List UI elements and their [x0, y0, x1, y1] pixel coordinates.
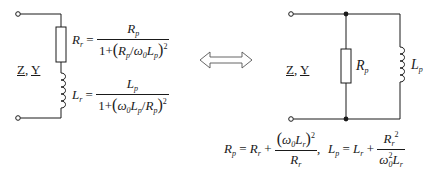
numerator: Rp — [97, 22, 170, 39]
terminal-bottom-left — [16, 116, 21, 121]
sub: p — [335, 149, 339, 158]
denominator: 1+(Rp/ω0Lp)2 — [97, 39, 170, 60]
equals: = — [342, 141, 349, 156]
fraction: Rp 1+(Rp/ω0Lp)2 — [97, 22, 170, 60]
denominator: Rr — [275, 150, 317, 169]
sym: ω — [134, 43, 143, 58]
sym: R — [224, 141, 232, 156]
plus: + — [264, 141, 271, 156]
terminal-top-right — [289, 12, 294, 17]
sub: r — [360, 149, 363, 158]
terminal-top-left — [16, 12, 21, 17]
sym: L — [131, 98, 138, 113]
rl-equivalence-diagram: Z, Y Z, Y Rp Lp Rr = Rp 1+(Rp/ω0Lp)2 Lr … — [0, 0, 433, 175]
lp-component-label: Lp — [411, 57, 423, 74]
fraction: Lp 1+(ω0Lp/Rp)2 — [96, 77, 169, 115]
fraction: (ω0Lr)2 Rr — [275, 131, 317, 169]
comma: , — [317, 141, 320, 156]
sub: p — [232, 149, 236, 158]
exp: 2 — [163, 97, 167, 106]
numerator: Rr2 — [377, 131, 405, 149]
inductor-lp — [400, 47, 405, 82]
formula-lr: Lr = Lp 1+(ω0Lp/Rp)2 — [72, 77, 169, 115]
junction-bottom — [344, 117, 349, 122]
y-symbol: Y — [300, 62, 309, 77]
rp-component-label: Rp — [356, 58, 369, 75]
separator: , — [294, 62, 297, 77]
plus: + — [367, 141, 374, 156]
separator: , — [25, 62, 28, 77]
sym: R — [72, 32, 80, 47]
sub: r — [258, 149, 261, 158]
equals: = — [86, 32, 93, 47]
sub: r — [79, 95, 82, 104]
l-symbol: L — [411, 57, 419, 72]
sym: ω — [117, 98, 126, 113]
z-symbol: Z — [286, 62, 294, 77]
formula-rr: Rr = Rp 1+(Rp/ω0Lp)2 — [72, 22, 169, 60]
junction-top — [344, 12, 349, 17]
sym: L — [147, 43, 154, 58]
sub: p — [135, 29, 139, 38]
resistor-rr — [56, 27, 66, 62]
impedance-admittance-label-right: Z, Y — [286, 62, 309, 78]
sub: r — [400, 160, 403, 169]
sym: R — [127, 21, 135, 36]
subscript: p — [419, 65, 423, 74]
inductor-lr — [61, 73, 66, 108]
equals: = — [86, 87, 93, 102]
sub: r — [80, 40, 83, 49]
y-symbol: Y — [31, 62, 40, 77]
exp: 2 — [395, 130, 399, 139]
denominator: ω02Lr — [377, 149, 405, 169]
sub: r — [298, 160, 301, 169]
r-symbol: R — [356, 58, 365, 73]
equals: = — [239, 141, 246, 156]
one-plus: 1+ — [99, 43, 113, 58]
numerator: Lp — [96, 77, 169, 94]
fraction: Rr2 ω02Lr — [377, 131, 405, 169]
one-plus: 1+ — [98, 98, 112, 113]
exp: 2 — [311, 131, 315, 140]
sym: ω — [282, 132, 291, 147]
sym: R — [118, 43, 126, 58]
equivalence-arrow-icon — [200, 52, 252, 68]
sub: p — [134, 84, 138, 93]
exp: 2 — [163, 42, 167, 51]
formula-rp: Rp = Rr + (ω0Lr)2 Rr , — [224, 131, 320, 169]
sym: L — [127, 76, 134, 91]
denominator: 1+(ω0Lp/Rp)2 — [96, 94, 169, 115]
sub: r — [391, 139, 394, 148]
impedance-admittance-label-left: Z, Y — [17, 62, 40, 78]
sym: L — [392, 152, 399, 167]
z-symbol: Z — [17, 62, 25, 77]
numerator: (ω0Lr)2 — [275, 131, 317, 150]
subscript: p — [365, 66, 369, 75]
formula-lp: Lp = Lr + Rr2 ω02Lr — [328, 131, 405, 169]
terminal-bottom-right — [289, 117, 294, 122]
resistor-rp — [341, 49, 351, 83]
sym: R — [250, 141, 258, 156]
